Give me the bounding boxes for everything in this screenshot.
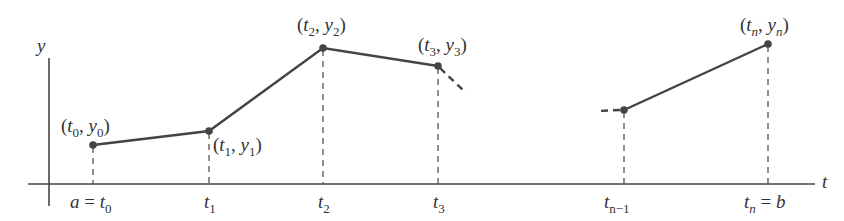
continuation-before-tn-1 — [597, 110, 620, 111]
point-p0 — [89, 141, 97, 149]
interpolant — [93, 44, 768, 145]
interpolant-segment-last — [624, 44, 768, 110]
point-label-pn: (tn, yn) — [740, 14, 789, 39]
point-pn-1 — [620, 106, 628, 114]
point-p2 — [319, 44, 327, 52]
drop-lines — [93, 46, 768, 184]
y-axis-label: y — [35, 35, 46, 56]
point-label-p1: (t1, y1) — [213, 134, 262, 159]
tick-label-tn: tn = b — [744, 191, 786, 216]
interpolant-segments-left — [93, 48, 438, 145]
tick-label-t1: t1 — [204, 191, 216, 216]
tick-label-t0: a = t0 — [70, 191, 112, 216]
continuation-dashes — [440, 68, 620, 111]
point-p3 — [434, 62, 442, 70]
t-axis-label: t — [822, 171, 828, 192]
interpolation-diagram: y t (t0, y0) (t1, y1) (t2, y2) (t3, y3) … — [0, 0, 844, 221]
point-label-p0: (t0, y0) — [61, 115, 110, 140]
tick-label-tn-1: tn−1 — [604, 191, 630, 216]
point-p1 — [205, 127, 213, 135]
point-label-p3: (t3, y3) — [418, 34, 467, 59]
point-label-p2: (t2, y2) — [297, 14, 346, 39]
continuation-after-t3 — [440, 68, 466, 93]
tick-label-t2: t2 — [318, 191, 330, 216]
tick-label-t3: t3 — [433, 191, 445, 216]
point-pn — [764, 40, 772, 48]
